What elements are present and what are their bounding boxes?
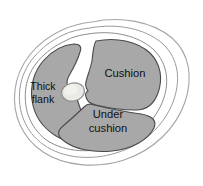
beef-cross-section-diagram: Thick flank Cushion Under cushion [0, 0, 203, 186]
label-under-cushion-line2: cushion [89, 122, 128, 134]
label-thick-flank: Thick flank [30, 80, 56, 105]
label-under-cushion-line1: Under [93, 108, 124, 120]
label-cushion-line1: Cushion [104, 67, 145, 79]
label-cushion: Cushion [104, 67, 145, 79]
diagram-root: Thick flank Cushion Under cushion [0, 0, 203, 186]
label-thick-flank-line2: flank [32, 93, 55, 105]
label-thick-flank-line1: Thick [30, 80, 56, 92]
